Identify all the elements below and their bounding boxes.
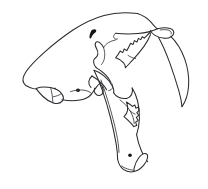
skull-line-drawing	[0, 0, 208, 189]
mental-foramen-icon	[128, 154, 132, 157]
skull-figure	[0, 0, 208, 189]
